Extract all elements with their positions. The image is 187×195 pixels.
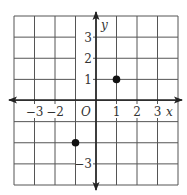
- y-tick-label: 1: [84, 73, 92, 87]
- x-tick-label: 2: [133, 105, 141, 119]
- data-point: [72, 139, 80, 147]
- data-point: [113, 76, 121, 84]
- x-tick-label: −2: [46, 105, 64, 119]
- y-axis-label: y: [100, 18, 108, 32]
- y-tick-label: 2: [84, 52, 92, 66]
- x-tick-label: 3: [154, 105, 162, 119]
- x-tick-label: −3: [26, 105, 44, 119]
- coordinate-plane: −3−2123321−3 x y O: [0, 0, 187, 195]
- x-axis-label: x: [166, 105, 173, 119]
- y-tick-label: 3: [84, 31, 92, 45]
- x-tick-label: 1: [113, 105, 121, 119]
- origin-label: O: [81, 105, 91, 119]
- y-tick-label: −3: [74, 157, 92, 171]
